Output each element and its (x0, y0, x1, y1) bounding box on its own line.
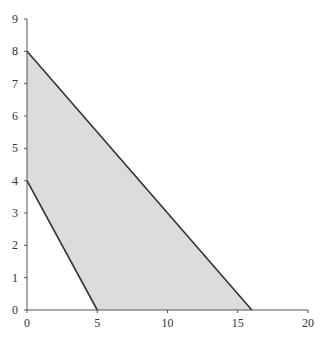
x-tick-label: 15 (232, 316, 244, 330)
y-tick-label: 0 (12, 303, 18, 317)
y-tick-label: 8 (12, 44, 18, 58)
y-tick-label: 4 (12, 174, 18, 188)
y-tick-label: 5 (12, 141, 18, 155)
feasible-region-chart: 051015200123456789 (0, 0, 323, 341)
y-tick-label: 3 (12, 206, 18, 220)
x-tick-label: 5 (94, 316, 100, 330)
y-tick-label: 9 (12, 12, 18, 26)
y-tick-label: 2 (12, 238, 18, 252)
y-tick-label: 7 (12, 77, 18, 91)
x-tick-label: 20 (302, 316, 314, 330)
x-tick-label: 0 (24, 316, 30, 330)
y-tick-label: 1 (12, 271, 18, 285)
x-tick-label: 10 (162, 316, 174, 330)
y-tick-label: 6 (12, 109, 18, 123)
